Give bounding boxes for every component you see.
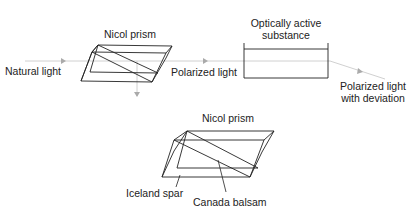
bottom-nicol-prism-shape bbox=[162, 131, 274, 177]
output-label-line2: with deviation bbox=[328, 92, 417, 104]
substance-tube bbox=[244, 43, 328, 78]
canada-balsam-label: Canada balsam bbox=[193, 196, 267, 208]
substance-label: Optically active substance bbox=[246, 17, 326, 41]
substance-label-line1: Optically active bbox=[246, 17, 326, 29]
polarized-light-label: Polarized light bbox=[171, 66, 237, 78]
iceland-spar-label: Iceland spar bbox=[126, 187, 183, 199]
substance-label-line2: substance bbox=[246, 29, 326, 41]
top-nicol-prism-label: Nicol prism bbox=[104, 28, 156, 40]
top-nicol-prism-shape bbox=[81, 45, 172, 82]
bottom-nicol-prism-label: Nicol prism bbox=[202, 112, 254, 124]
leader-lines bbox=[176, 160, 226, 192]
output-label: Polarized light with deviation bbox=[328, 80, 417, 104]
natural-light-label: Natural light bbox=[5, 65, 61, 77]
output-label-line1: Polarized light bbox=[328, 80, 417, 92]
